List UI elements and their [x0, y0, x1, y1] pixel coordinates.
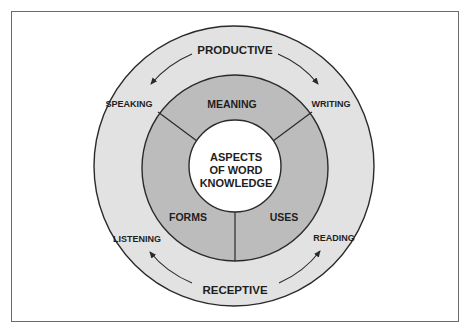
label-reading: READING: [313, 233, 355, 243]
center-line-1: ASPECTS: [210, 151, 262, 163]
label-uses: USES: [270, 211, 299, 223]
label-receptive: RECEPTIVE: [202, 284, 268, 296]
label-productive: PRODUCTIVE: [197, 44, 273, 56]
label-writing: WRITING: [312, 99, 351, 109]
word-knowledge-diagram: PRODUCTIVE RECEPTIVE SPEAKING WRITING LI…: [0, 0, 473, 331]
center-line-2: OF WORD: [209, 164, 262, 176]
center-line-3: KNOWLEDGE: [200, 177, 273, 189]
label-forms: FORMS: [169, 211, 207, 223]
label-meaning: MEANING: [207, 98, 257, 110]
label-listening: LISTENING: [113, 234, 161, 244]
label-speaking: SPEAKING: [105, 99, 152, 109]
